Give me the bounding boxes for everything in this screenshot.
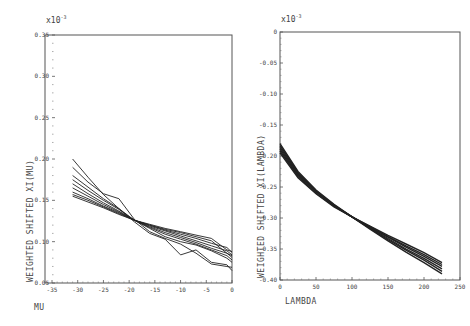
x-tick-label: 50 bbox=[312, 283, 320, 290]
data-curve bbox=[73, 196, 232, 251]
x-tick-label: -10 bbox=[175, 286, 186, 293]
data-curve bbox=[73, 167, 232, 267]
x-tick-label: 0 bbox=[278, 283, 282, 290]
data-curve bbox=[73, 180, 232, 260]
y-tick-label: 0.05 bbox=[35, 279, 50, 286]
right-curves bbox=[280, 144, 442, 274]
x-tick-label: -5 bbox=[203, 286, 211, 293]
y-tick-label: 0.35 bbox=[35, 31, 50, 38]
left-plot: 0.050.100.150.200.250.300.35 -35-30-25-2… bbox=[26, 14, 234, 312]
x-tick-label: 150 bbox=[383, 283, 394, 290]
y-tick-label: -0.05 bbox=[259, 59, 277, 66]
x-tick-label: -15 bbox=[149, 286, 160, 293]
y-tick-label: 0.15 bbox=[35, 196, 50, 203]
y-tick-label: 0.20 bbox=[35, 155, 50, 162]
right-multiplier: x10-3 bbox=[281, 13, 301, 24]
right-x-label: LAMBDA bbox=[285, 297, 317, 306]
x-tick-label: -35 bbox=[47, 286, 58, 293]
x-tick-label: 0 bbox=[230, 286, 234, 293]
data-curve bbox=[280, 147, 442, 268]
x-tick-label: 100 bbox=[347, 283, 358, 290]
x-tick-label: -30 bbox=[72, 286, 83, 293]
x-tick-label: 200 bbox=[419, 283, 430, 290]
data-curve bbox=[73, 188, 232, 255]
y-tick-label: 0.10 bbox=[35, 238, 50, 245]
data-curve bbox=[73, 184, 232, 258]
chart-canvas: 0.050.100.150.200.250.300.35 -35-30-25-2… bbox=[0, 0, 470, 326]
x-tick-label: -20 bbox=[124, 286, 135, 293]
y-tick-label: 0 bbox=[273, 28, 277, 35]
x-tick-label: -25 bbox=[98, 286, 109, 293]
right-plot: -0.40-0.35-0.30-0.25-0.20-0.15-0.10-0.05… bbox=[257, 13, 466, 306]
y-tick-label: 0.30 bbox=[35, 72, 50, 79]
y-tick-label: 0.25 bbox=[35, 114, 50, 121]
left-y-label: WEIGHTED SHIFTED XI(MU) bbox=[26, 160, 35, 282]
right-y-label: WEIGHTED SHIFTED XI(LAMBDA) bbox=[257, 134, 266, 278]
left-curves bbox=[73, 159, 232, 271]
y-tick-label: -0.10 bbox=[259, 90, 277, 97]
y-tick-label: -0.15 bbox=[259, 121, 277, 128]
data-curve bbox=[280, 151, 442, 265]
left-x-label: MU bbox=[34, 303, 45, 312]
right-plot-frame bbox=[280, 32, 460, 280]
data-curve bbox=[280, 149, 442, 266]
data-curve bbox=[73, 159, 232, 271]
x-tick-label: 250 bbox=[455, 283, 466, 290]
data-curve bbox=[280, 153, 442, 263]
left-x-axis: -35-30-25-20-15-10-50 bbox=[47, 280, 235, 293]
left-multiplier: x10-3 bbox=[46, 14, 66, 25]
right-x-axis: 050100150200250 bbox=[278, 277, 466, 290]
